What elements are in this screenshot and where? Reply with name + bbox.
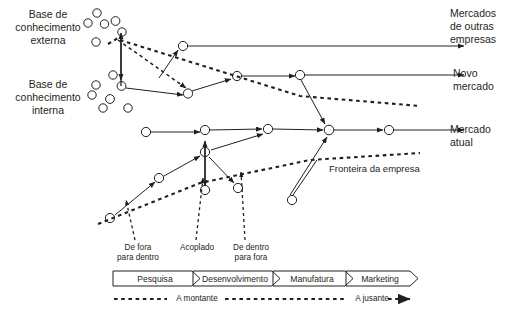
label-line: Mercado xyxy=(450,123,510,136)
boundary-seg-top-stub xyxy=(108,38,118,44)
stage-marketing[interactable]: Marketing xyxy=(348,274,412,284)
node-h xyxy=(324,125,334,135)
arrow-j-to-g xyxy=(211,134,263,150)
label-line: mercado xyxy=(453,80,510,93)
external-knowledge-base-label: Base de conhecimento externa xyxy=(2,8,94,46)
node-f xyxy=(200,125,209,134)
funnel-nodes xyxy=(105,41,393,222)
stage-pesquisa[interactable]: Pesquisa xyxy=(116,274,194,284)
boundary-dashed-lines xyxy=(98,38,420,224)
node-g xyxy=(263,124,272,133)
annotation-outside-in: De fora para dentro xyxy=(106,243,170,263)
internal-knowledge-base-label: Base de conhecimento interna xyxy=(2,78,94,116)
label-line: conhecimento xyxy=(2,91,94,104)
label-line: de outras xyxy=(450,20,510,33)
node-k xyxy=(154,173,163,182)
funnel-flow-arrows xyxy=(115,46,464,215)
legend-downstream-label: A jusante xyxy=(348,294,396,304)
stage-desenvolvimento[interactable]: Desenvolvimento xyxy=(196,274,274,284)
arrow-n-to-h xyxy=(290,137,327,195)
label-line: Mercados xyxy=(450,7,510,20)
label-line: atual xyxy=(450,136,510,149)
label-line: externa xyxy=(2,34,94,47)
arrow-c-to-h xyxy=(301,80,325,124)
annotation-coupled: Acoplado xyxy=(171,243,223,253)
node-n xyxy=(287,195,296,204)
boundary-dashed-arrows xyxy=(118,40,226,99)
callout-inside-out xyxy=(241,172,245,240)
new-market-label: Novo mercado xyxy=(453,67,510,93)
arrow-k-to-j xyxy=(164,156,200,176)
company-boundary-label: Fronteira da empresa xyxy=(329,163,469,175)
label-line: conhecimento xyxy=(2,21,94,34)
annotation-callout-arrows xyxy=(126,172,245,240)
label-line: empresas xyxy=(450,33,510,46)
annotation-line: Acoplado xyxy=(171,243,223,253)
diagram-svg xyxy=(0,0,510,318)
current-market-label: Mercado atual xyxy=(450,123,510,149)
arrow-to-node-d xyxy=(126,88,183,95)
annotation-line: para dentro xyxy=(106,253,170,263)
arrow-g-to-h xyxy=(273,129,323,130)
annotation-line: De fora xyxy=(106,243,170,253)
node-a xyxy=(178,41,187,50)
annotation-line: para fora xyxy=(220,253,282,263)
label-line: Base de xyxy=(2,8,94,21)
diagram-canvas: Base de conhecimento externa Base de con… xyxy=(0,0,510,318)
node-c xyxy=(295,70,304,79)
annotation-line: De dentro xyxy=(220,243,282,253)
annotation-inside-out: De dentro para fora xyxy=(220,243,282,263)
boundary-upper xyxy=(120,40,420,106)
callout-coupled xyxy=(196,178,203,240)
node-e xyxy=(141,127,150,136)
boundary-connector-line xyxy=(293,160,317,195)
boundary-leader xyxy=(293,160,317,195)
node-i xyxy=(384,125,393,134)
stage-manufatura[interactable]: Manufatura xyxy=(276,274,348,284)
legend-upstream-label: A montante xyxy=(170,294,224,304)
arrow-d-to-b xyxy=(192,79,231,91)
label-line: Base de xyxy=(2,78,94,91)
arrow-f-to-g xyxy=(210,129,262,130)
node-d xyxy=(183,89,192,98)
label-line: Novo xyxy=(453,67,510,80)
label-line: interna xyxy=(2,104,94,117)
outer-knowledge-nodes-bottom xyxy=(88,71,132,112)
dashed-arrow-in xyxy=(118,40,186,88)
callout-outside-in xyxy=(126,200,135,240)
other-companies-markets-label: Mercados de outras empresas xyxy=(450,7,510,45)
